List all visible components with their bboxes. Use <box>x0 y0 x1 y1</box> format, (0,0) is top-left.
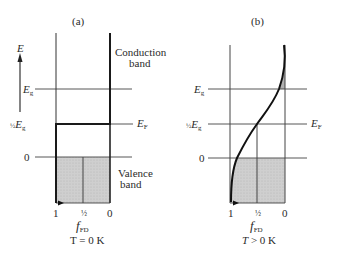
half-eg-label-a: ½Eg <box>10 119 25 134</box>
fermi-level-label-b: EF <box>311 118 322 133</box>
energy-axis-label: E <box>17 43 24 54</box>
panel-a-graphics <box>18 33 134 206</box>
fermi-subscript: F <box>144 123 148 131</box>
temperature-label-a: T = 0 K <box>70 235 104 246</box>
fermi-symbol: E <box>311 117 318 129</box>
panel-a-label: (a) <box>72 16 84 27</box>
fd-subscript: FD <box>254 226 263 234</box>
fermi-symbol: E <box>137 117 144 129</box>
fermi-level-label-a: EF <box>137 118 148 133</box>
temperature-value: > 0 K <box>248 234 276 246</box>
tick-0-b: 0 <box>282 208 288 219</box>
tick-half-a: ½ <box>81 208 87 219</box>
half-eg-symbol: E <box>15 118 22 130</box>
valence-band-label-line2: band <box>120 179 141 190</box>
half-eg-subscript: g <box>198 124 202 132</box>
eg-level-label-a: Eg <box>23 84 33 99</box>
energy-arrow-head-icon <box>18 53 23 62</box>
eg-subscript: g <box>201 89 205 97</box>
conduction-band-label-line2: band <box>129 58 150 69</box>
zero-level-label-a: 0 <box>24 152 30 163</box>
eg-level-label-b: Eg <box>194 84 204 99</box>
panel-b-label: (b) <box>251 16 264 27</box>
fermi-subscript: F <box>318 123 322 131</box>
tick-0-a: 0 <box>107 208 113 219</box>
half-eg-label-b: ½Eg <box>186 119 201 134</box>
temperature-label-b: T > 0 K <box>242 235 276 246</box>
eg-symbol: E <box>23 83 30 95</box>
tick-1-a: 1 <box>53 208 59 219</box>
tick-1-b: 1 <box>228 208 234 219</box>
eg-symbol: E <box>194 83 201 95</box>
zero-level-label-b: 0 <box>199 153 205 164</box>
half-eg-symbol: E <box>191 118 198 130</box>
fd-subscript: FD <box>80 226 89 234</box>
panel-b-graphics <box>208 45 307 206</box>
half-eg-subscript: g <box>22 124 26 132</box>
tick-half-b: ½ <box>255 208 261 219</box>
eg-subscript: g <box>30 89 34 97</box>
